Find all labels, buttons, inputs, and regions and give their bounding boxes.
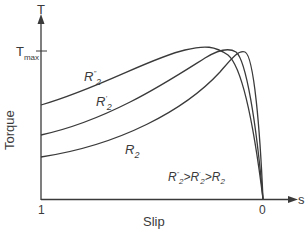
tmax-base: T (16, 44, 24, 59)
rel-sub: 2 (220, 177, 224, 186)
curve-r2-prime (41, 50, 263, 199)
curve-label-r2: R2 (125, 142, 139, 160)
label-sub: 2 (134, 150, 139, 160)
rel-r: R (168, 170, 177, 184)
curve-label-r2-prime: R'2 (96, 94, 112, 112)
x-axis-arrow-icon (288, 196, 298, 203)
curve-r2-double-prime (41, 47, 263, 199)
label-base: R (125, 142, 134, 157)
x-tick-zero: 0 (259, 203, 266, 217)
label-sub: 2 (107, 102, 112, 112)
label-base: R (84, 69, 93, 84)
curve-label-r2-double-prime: R''2 (84, 69, 101, 87)
x-axis-label: Slip (143, 214, 165, 229)
y-axis-symbol: T (37, 2, 45, 17)
label-base: R (96, 94, 105, 109)
rel-r: R (190, 170, 199, 184)
rel-gt: > (205, 170, 212, 184)
tmax-sub: max (24, 53, 39, 62)
tmax-label: Tmax (16, 44, 39, 62)
x-tick-one: 1 (38, 203, 45, 217)
label-sub: 2 (96, 77, 101, 87)
resistance-relation: R''2>R'2>R2 (168, 170, 225, 186)
y-axis-label: Torque (2, 110, 17, 150)
torque-slip-diagram (0, 0, 308, 233)
x-axis-symbol: s (298, 192, 305, 207)
